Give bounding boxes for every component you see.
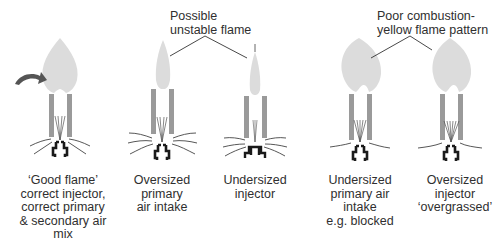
burner-good-flame [15,38,90,157]
injector-nozzle [53,142,67,157]
flame-shape [342,38,382,92]
air-flow-arrows [30,139,90,154]
caption-undersized-primary: Undersized primary air intake e.g. block… [320,174,400,228]
curved-arrow-icon [15,72,47,85]
callout-poor-combustion: Poor combustion- yellow flame pattern [377,9,488,37]
burner-tube-left [49,94,54,137]
caption-oversized-injector: Oversized injector ‘overgrassed’ [410,174,500,215]
burner-oversized-primary [128,40,197,160]
gas-jet-lines [55,116,65,140]
callout-lines-poor [371,36,432,58]
caption-oversized-primary: Oversized primary air intake [122,174,202,215]
flame-shape [156,40,170,89]
caption-undersized-injector: Undersized injector [215,174,295,201]
callout-unstable-flame: Possible unstable flame [170,9,251,37]
injector-nozzle [245,147,265,158]
burner-undersized-primary [330,38,390,161]
burner-undersized-injector [223,44,287,158]
burner-oversized-injector [418,38,482,161]
flame-shape [433,38,472,92]
burner-tube-right [67,94,72,137]
callout-lines-unstable [170,36,247,58]
flame-shape [250,52,261,95]
flame-shape [42,38,77,93]
caption-good-flame: ‘Good flame’ correct injector, correct p… [8,174,118,242]
